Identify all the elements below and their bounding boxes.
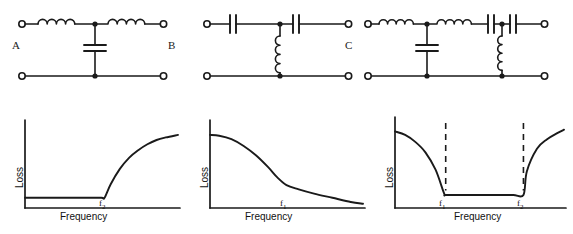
junction-dot-top-right-c <box>499 21 504 26</box>
junction-dot-top-b <box>277 21 282 26</box>
x-axis-label-bandpass: Frequency <box>454 211 501 222</box>
y-axis-label-highpass: Loss <box>199 167 210 188</box>
terminal-in-bottom-c <box>365 73 371 79</box>
chart-panel-lowpass: Loss Frequency f2 <box>0 105 190 234</box>
terminal-out-bottom-b <box>345 73 351 79</box>
terminal-out-bottom-c <box>541 73 547 79</box>
circuit-panel-c: C <box>355 0 573 100</box>
filter-figure: A <box>0 0 573 234</box>
tick-label-f1-highpass: f1 <box>280 198 287 211</box>
circuit-label-c: C <box>345 40 352 51</box>
terminal-out-top-b <box>345 21 351 27</box>
terminal-in-bottom-a <box>19 73 25 79</box>
junction-dot-bottom-right-c <box>499 73 504 78</box>
junction-dot-bottom-a <box>92 73 97 78</box>
junction-dot-top-left-c <box>424 21 429 26</box>
terminal-in-bottom-b <box>204 73 210 79</box>
junction-dot-bottom-b <box>277 73 282 78</box>
x-axis-label-highpass: Frequency <box>245 211 292 222</box>
circuit-label-a: A <box>12 40 20 51</box>
junction-dot-bottom-left-c <box>424 73 429 78</box>
terminal-out-bottom-a <box>160 73 166 79</box>
circuit-panel-a: A <box>0 0 190 100</box>
y-axis-label-bandpass: Loss <box>384 167 395 188</box>
x-axis-label-lowpass: Frequency <box>60 211 107 222</box>
tick-label-f2-bandpass: f2 <box>517 198 524 211</box>
tick-label-f2-lowpass: f2 <box>99 198 106 211</box>
chart-panel-highpass: Loss Frequency f1 <box>185 105 375 234</box>
circuit-schematic-c <box>355 0 573 100</box>
response-curve-bandpass <box>395 130 564 197</box>
y-axis-label-lowpass: Loss <box>14 167 25 188</box>
junction-dot-top-a <box>92 21 97 26</box>
terminal-out-top-a <box>160 21 166 27</box>
tick-label-f1-bandpass: f1 <box>439 198 446 211</box>
terminal-out-top-c <box>541 21 547 27</box>
response-curve-lowpass <box>25 135 178 199</box>
circuit-schematic-a <box>0 0 190 100</box>
response-curve-highpass <box>210 135 363 204</box>
chart-panel-bandpass: Loss Frequency f1 f2 <box>370 105 573 234</box>
circuit-label-b: B <box>168 40 175 51</box>
threshold-dashes-bandpass <box>446 123 524 191</box>
